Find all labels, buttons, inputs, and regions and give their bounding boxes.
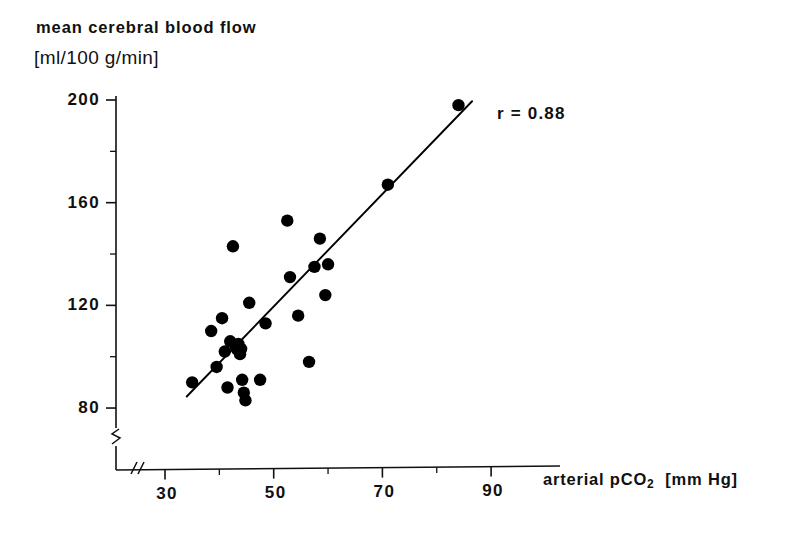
data-point: [236, 374, 248, 386]
data-point: [254, 374, 266, 386]
data-point: [186, 376, 198, 388]
data-point: [221, 381, 233, 393]
y-tick-label: 120: [44, 295, 100, 315]
data-point: [292, 309, 304, 321]
data-point: [303, 356, 315, 368]
data-point: [382, 179, 394, 191]
y-tick-label: 200: [44, 90, 100, 110]
axes: [112, 96, 560, 474]
x-tick-label: 50: [265, 483, 287, 503]
data-point: [239, 394, 251, 406]
x-tick-label: 30: [156, 484, 178, 504]
data-point: [216, 312, 228, 324]
data-point: [259, 317, 271, 329]
data-point: [243, 297, 255, 309]
y-axis-break-icon: [112, 429, 120, 444]
x-axis-line: [116, 466, 560, 470]
data-point: [314, 232, 326, 244]
x-tick-label: 70: [374, 482, 396, 502]
data-point: [281, 214, 293, 226]
data-point: [452, 99, 464, 111]
data-point: [284, 271, 296, 283]
data-point: [235, 343, 247, 355]
data-point: [210, 361, 222, 373]
data-point: [227, 240, 239, 252]
data-point: [308, 261, 320, 273]
data-point: [205, 325, 217, 337]
x-axis-break-icon: [131, 462, 144, 474]
plot-area: [0, 0, 809, 549]
axis-ticks: [106, 100, 491, 480]
data-point: [322, 258, 334, 270]
x-tick-label: 90: [482, 481, 504, 501]
chart-figure: mean cerebral blood flow [ml/100 g/min] …: [0, 0, 809, 549]
data-point: [319, 289, 331, 301]
y-tick-label: 80: [44, 398, 100, 418]
y-tick-label: 160: [44, 193, 100, 213]
